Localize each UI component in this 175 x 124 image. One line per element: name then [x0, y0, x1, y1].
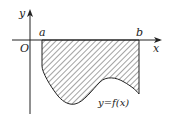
y-axis: [27, 9, 33, 114]
shaded-region: [42, 40, 139, 104]
point-a-label: a: [39, 27, 46, 38]
curve-label: y=f(x): [98, 98, 129, 108]
origin-label: O: [20, 43, 29, 54]
area-diagram: y x O a b y=f(x): [0, 0, 175, 124]
diagram-graphic: [0, 0, 175, 124]
y-axis-label: y: [19, 8, 25, 19]
point-b-label: b: [136, 27, 143, 38]
x-axis-label: x: [153, 43, 159, 54]
